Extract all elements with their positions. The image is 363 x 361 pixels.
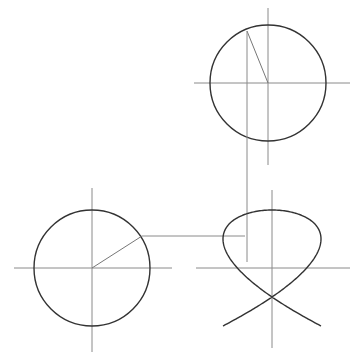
left-circle-group [14, 188, 172, 352]
top-circle-group [194, 8, 350, 165]
top-circle-radius [247, 31, 268, 83]
lissajous-group [196, 190, 350, 348]
left-circle-radius [92, 236, 142, 268]
lissajous-construction-diagram [0, 0, 363, 361]
projection-lines [142, 31, 247, 262]
